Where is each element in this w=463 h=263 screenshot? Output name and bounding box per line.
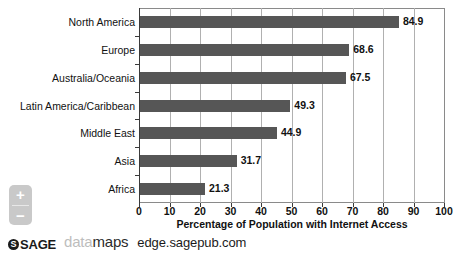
- bar-africa: [140, 183, 205, 195]
- x-axis-tick-label: 10: [164, 205, 176, 217]
- y-axis-tick: [135, 175, 139, 176]
- x-axis-tick-label: 80: [377, 205, 389, 217]
- bar-row: 67.5: [140, 72, 444, 84]
- bar-row: 68.6: [140, 44, 444, 56]
- x-axis-tick-label: 50: [286, 205, 298, 217]
- y-axis-tick: [135, 92, 139, 93]
- datamaps-wordmark: datamaps: [64, 233, 128, 250]
- x-axis-tick-label: 60: [316, 205, 328, 217]
- bar-row: 84.9: [140, 16, 444, 28]
- category-label: Middle East: [0, 127, 135, 139]
- bar-north-america: [140, 16, 399, 28]
- zoom-out-button[interactable]: −: [9, 206, 32, 225]
- x-axis-title: Percentage of Population with Internet A…: [139, 218, 445, 230]
- plus-icon: +: [16, 187, 25, 202]
- x-axis-tick-labels: 0102030405060708090100: [139, 205, 445, 219]
- footer-branding: SSAGE datamaps edge.sagepub.com: [8, 233, 246, 252]
- datamaps-maps-text: maps: [92, 233, 128, 250]
- y-axis-tick: [135, 36, 139, 37]
- bar-europe: [140, 44, 349, 56]
- category-label: Europe: [0, 44, 135, 56]
- category-label: Australia/Oceania: [0, 72, 135, 84]
- chart-plot-area: 84.968.667.549.344.931.721.3: [139, 8, 445, 203]
- bar-value-label: 68.6: [353, 42, 373, 57]
- bar-latin-america-caribbean: [140, 100, 290, 112]
- bar-value-label: 84.9: [403, 14, 423, 29]
- y-axis-category-labels: North AmericaEuropeAustralia/OceaniaLati…: [0, 8, 135, 203]
- category-label: Asia: [0, 155, 135, 167]
- bar-middle-east: [140, 127, 277, 139]
- bar-australia-oceania: [140, 72, 346, 84]
- x-axis-tick-label: 70: [347, 205, 359, 217]
- sage-logo: SSAGE: [8, 237, 56, 252]
- minus-icon: −: [16, 208, 25, 223]
- map-zoom-control[interactable]: + −: [9, 185, 32, 225]
- x-axis-tick-label: 20: [194, 205, 206, 217]
- bar-value-label: 31.7: [241, 153, 261, 168]
- sage-logo-text: SAGE: [20, 237, 56, 252]
- x-axis-tick-label: 100: [435, 205, 453, 217]
- x-axis-tick-label: 90: [408, 205, 420, 217]
- x-axis-tick-label: 40: [255, 205, 267, 217]
- bar-value-label: 21.3: [209, 181, 229, 196]
- bar-row: 21.3: [140, 183, 444, 195]
- y-axis-tick: [135, 64, 139, 65]
- x-axis-tick-label: 0: [136, 205, 142, 217]
- bar-row: 31.7: [140, 155, 444, 167]
- category-label: Latin America/Caribbean: [0, 100, 135, 112]
- y-axis-tick: [135, 119, 139, 120]
- y-axis-tick: [135, 147, 139, 148]
- bar-row: 44.9: [140, 127, 444, 139]
- chart-screenshot: North AmericaEuropeAustralia/OceaniaLati…: [0, 0, 463, 263]
- bar-value-label: 44.9: [281, 125, 301, 140]
- x-axis-tick-label: 30: [225, 205, 237, 217]
- footer-url: edge.sagepub.com: [137, 235, 246, 250]
- bar-value-label: 49.3: [294, 98, 314, 113]
- bar-asia: [140, 155, 237, 167]
- zoom-in-button[interactable]: +: [9, 185, 32, 204]
- category-label: North America: [0, 16, 135, 28]
- datamaps-data-text: data: [64, 233, 92, 250]
- bar-value-label: 67.5: [350, 70, 370, 85]
- sage-circle-icon: S: [8, 239, 19, 250]
- bar-row: 49.3: [140, 100, 444, 112]
